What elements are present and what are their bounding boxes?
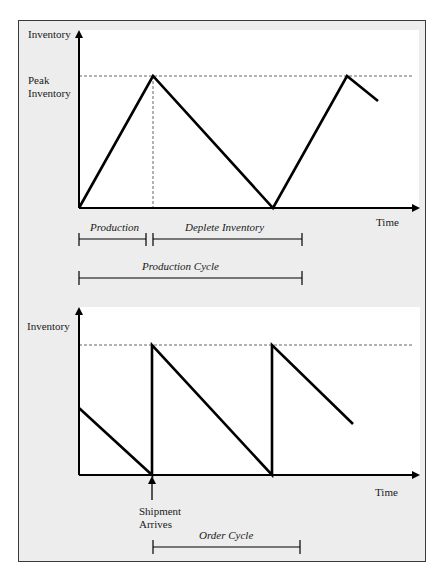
peak-label-line2: Inventory: [28, 87, 71, 99]
inventory-cycle-diagram: Inventory Peak Inventory Time Production…: [0, 0, 443, 578]
span-production: [79, 233, 146, 246]
bottom-panel: Inventory Time Shipment Arrives Order Cy…: [27, 307, 420, 554]
span-production-cycle-label: Production Cycle: [141, 260, 219, 272]
shipment-label-line1: Shipment: [139, 505, 181, 517]
span-production-cycle: [79, 271, 302, 285]
y-axis-label: Inventory: [27, 320, 70, 332]
x-axis-label: Time: [375, 486, 398, 498]
span-production-label: Production: [89, 221, 140, 233]
span-order-cycle: [153, 540, 300, 554]
shipment-label-line2: Arrives: [139, 518, 172, 530]
span-order-cycle-label: Order Cycle: [199, 529, 253, 541]
top-panel: Inventory Peak Inventory Time Production…: [28, 28, 419, 285]
y-axis-label: Inventory: [28, 28, 71, 40]
span-deplete: [153, 233, 302, 246]
span-deplete-label: Deplete Inventory: [184, 221, 264, 233]
peak-label-line1: Peak: [28, 74, 50, 86]
x-axis-label: Time: [376, 216, 399, 228]
